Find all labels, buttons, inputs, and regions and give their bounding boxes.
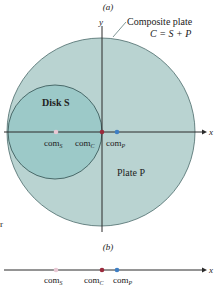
composite-leader-line — [113, 22, 126, 37]
com-s-label-b: comS — [44, 275, 63, 285]
composite-equation-label: C = S + P — [150, 28, 191, 39]
x-axis-arrow-icon — [202, 130, 207, 135]
part-b-label: (b) — [103, 242, 114, 252]
x-axis-b-label: x — [208, 265, 213, 275]
plate-p-label: Plate P — [117, 167, 145, 178]
com-c-dot-b — [100, 268, 105, 273]
x-axis-b-arrow-icon — [202, 268, 207, 273]
com-p-label-b: comP — [113, 275, 133, 285]
com-p-dot — [115, 130, 120, 135]
com-c-dot — [100, 130, 105, 135]
y-axis-label: y — [98, 17, 103, 27]
composite-plate-label: Composite plate — [127, 16, 193, 27]
com-p-dot-b — [115, 268, 120, 273]
com-s-dot — [54, 130, 59, 135]
composite-plate-diagram: (a) x y Composite plate C = S + P Disk S… — [0, 0, 216, 285]
part-a-label: (a) — [103, 2, 114, 12]
com-c-label-b: comC — [84, 275, 105, 285]
com-s-dot-b — [54, 268, 59, 273]
stray-text: r — [0, 219, 3, 229]
disk-s-label: Disk S — [42, 97, 70, 108]
x-axis-label: x — [208, 127, 213, 137]
